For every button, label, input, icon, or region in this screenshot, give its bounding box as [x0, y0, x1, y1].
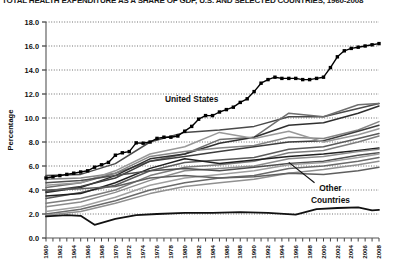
- y-tick-label: 6.0: [29, 162, 39, 171]
- united-states-marker: [44, 176, 47, 179]
- x-tick-label: 1978: [167, 244, 174, 258]
- x-tick-label: 1990: [250, 244, 257, 258]
- united-states-marker: [287, 77, 290, 80]
- united-states-marker: [280, 77, 283, 80]
- united-states-marker: [169, 136, 172, 139]
- chart-container: TOTAL HEALTH EXPENDITURE AS A SHARE OF G…: [0, 0, 393, 268]
- united-states-marker: [252, 90, 255, 93]
- united-states-marker: [266, 78, 269, 81]
- y-tick-label: 16.0: [25, 42, 39, 51]
- united-states-marker: [58, 174, 61, 177]
- united-states-marker: [336, 55, 339, 58]
- united-states-marker: [363, 44, 366, 47]
- united-states-marker: [72, 172, 75, 175]
- x-tick-label: 1962: [56, 244, 63, 258]
- united-states-marker: [65, 173, 68, 176]
- x-tick-label: 1998: [306, 244, 313, 258]
- united-states-marker: [301, 78, 304, 81]
- united-states-marker: [190, 125, 193, 128]
- x-tick-label: 1970: [112, 244, 119, 258]
- x-tick-label: 1960: [42, 244, 49, 258]
- y-tick-label: 2.0: [29, 210, 39, 219]
- united-states-marker: [107, 161, 110, 164]
- united-states-marker: [86, 169, 89, 172]
- x-tick-label: 2004: [347, 244, 354, 258]
- united-states-marker: [356, 46, 359, 49]
- united-states-marker: [141, 142, 144, 145]
- united-states-marker: [114, 154, 117, 157]
- x-tick-label: 1964: [70, 244, 77, 258]
- united-states-marker: [259, 82, 262, 85]
- united-states-marker: [225, 108, 228, 111]
- united-states-marker: [218, 110, 221, 113]
- united-states-marker: [273, 76, 276, 79]
- united-states-marker: [162, 136, 165, 139]
- x-tick-label: 1974: [139, 244, 146, 258]
- y-axis-title-group: Percentage: [6, 110, 15, 151]
- series-line: [46, 207, 379, 224]
- x-tick-label: 1982: [195, 244, 202, 258]
- united-states-marker: [183, 130, 186, 133]
- united-states-marker: [51, 175, 54, 178]
- x-tick-label: 2006: [361, 244, 368, 258]
- y-tick-label: 18.0: [25, 18, 39, 27]
- x-tick-label: 2002: [334, 244, 341, 258]
- x-tick-label: 1972: [125, 244, 132, 258]
- united-states-series-group: [44, 42, 380, 180]
- united-states-marker: [239, 101, 242, 104]
- united-states-marker: [100, 163, 103, 166]
- line-chart-plot: 0.02.04.06.08.010.012.014.016.018.0 1960…: [0, 0, 393, 268]
- united-states-line: [46, 44, 379, 178]
- x-tick-label: 1992: [264, 244, 271, 258]
- united-states-marker: [377, 42, 380, 45]
- united-states-marker: [148, 140, 151, 143]
- united-states-marker: [370, 43, 373, 46]
- united-states-marker: [176, 134, 179, 137]
- y-tick-label: 12.0: [25, 90, 39, 99]
- united-states-marker: [155, 137, 158, 140]
- united-states-marker: [121, 151, 124, 154]
- united-states-marker: [79, 170, 82, 173]
- other-countries-series-group: [46, 104, 379, 225]
- united-states-marker: [350, 47, 353, 50]
- united-states-marker: [197, 118, 200, 121]
- chart-title: TOTAL HEALTH EXPENDITURE AS A SHARE OF G…: [2, 0, 363, 5]
- x-tick-label: 1996: [292, 244, 299, 258]
- x-tick-label: 1988: [236, 244, 243, 258]
- x-tick-label: 2008: [375, 244, 382, 258]
- x-tick-label: 1994: [278, 244, 285, 258]
- united-states-marker: [308, 78, 311, 81]
- y-tick-label: 8.0: [29, 138, 39, 147]
- united-states-marker: [134, 141, 137, 144]
- series-annotation-label: Countries: [311, 195, 350, 205]
- series-annotation-label: Other: [319, 183, 342, 193]
- x-tick-label: 2000: [320, 244, 327, 258]
- united-states-marker: [343, 49, 346, 52]
- united-states-marker: [294, 77, 297, 80]
- x-tick-label: 1980: [181, 244, 188, 258]
- x-tick-label: 1968: [98, 244, 105, 258]
- y-tick-label: 10.0: [25, 114, 39, 123]
- y-axis-title: Percentage: [6, 110, 15, 151]
- x-tick-label: 1966: [84, 244, 91, 258]
- united-states-marker: [93, 166, 96, 169]
- united-states-marker: [329, 66, 332, 69]
- y-tick-label: 4.0: [29, 186, 39, 195]
- x-tick-label: 1986: [223, 244, 230, 258]
- united-states-marker: [204, 114, 207, 117]
- x-tick-label: 1984: [209, 244, 216, 258]
- chart-title-strip: TOTAL HEALTH EXPENDITURE AS A SHARE OF G…: [0, 0, 393, 7]
- y-tick-label: 0.0: [29, 234, 39, 243]
- series-annotation-label: United States: [165, 94, 219, 104]
- y-tick-labels-group: 0.02.04.06.08.010.012.014.016.018.0: [25, 18, 39, 243]
- united-states-marker: [245, 97, 248, 100]
- united-states-marker: [232, 106, 235, 109]
- y-tick-label: 14.0: [25, 66, 39, 75]
- united-states-marker: [211, 114, 214, 117]
- united-states-marker: [322, 76, 325, 79]
- united-states-marker: [315, 77, 318, 80]
- x-tick-labels-group: 1960196219641966196819701972197419761978…: [42, 244, 382, 258]
- united-states-marker: [128, 150, 131, 153]
- x-tick-label: 1976: [153, 244, 160, 258]
